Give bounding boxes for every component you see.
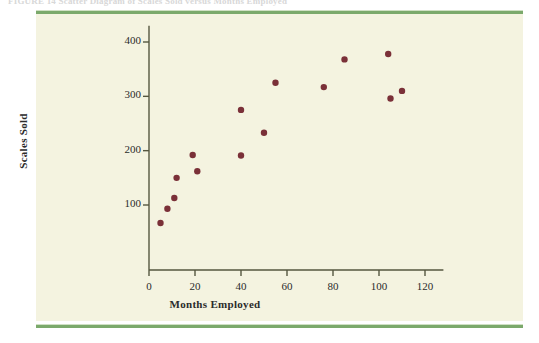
data-point bbox=[238, 107, 244, 113]
x-tick-label: 120 bbox=[405, 280, 445, 292]
y-tick-label: 300 bbox=[101, 88, 141, 100]
x-tick-label: 40 bbox=[221, 280, 261, 292]
y-tick-label: 100 bbox=[101, 197, 141, 209]
data-point bbox=[272, 80, 278, 86]
data-point bbox=[385, 51, 391, 57]
tick-marks bbox=[143, 42, 425, 276]
x-axis-title: Months Employed bbox=[0, 298, 430, 310]
data-point bbox=[261, 130, 267, 136]
data-point bbox=[321, 84, 327, 90]
data-point bbox=[341, 56, 347, 62]
axes bbox=[149, 26, 443, 270]
y-tick-label: 400 bbox=[101, 34, 141, 46]
x-tick-label: 80 bbox=[313, 280, 353, 292]
y-axis-title: Scales Sold bbox=[17, 96, 29, 186]
data-point bbox=[399, 88, 405, 94]
x-tick-label: 0 bbox=[129, 280, 169, 292]
data-point bbox=[190, 152, 196, 158]
data-point bbox=[164, 206, 170, 212]
x-tick-label: 100 bbox=[359, 280, 399, 292]
data-point bbox=[171, 195, 177, 201]
data-point bbox=[238, 152, 244, 158]
data-points bbox=[157, 51, 405, 226]
x-tick-label: 60 bbox=[267, 280, 307, 292]
y-tick-label: 200 bbox=[101, 143, 141, 155]
data-point bbox=[194, 168, 200, 174]
data-point bbox=[387, 95, 393, 101]
x-tick-label: 20 bbox=[175, 280, 215, 292]
data-point bbox=[157, 220, 163, 226]
data-point bbox=[173, 175, 179, 181]
